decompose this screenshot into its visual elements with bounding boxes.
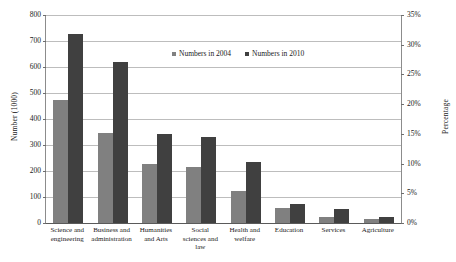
bars-layer: [46, 15, 401, 223]
bar: [290, 204, 305, 223]
x-axis-category-label: Humanities and Arts: [134, 226, 178, 252]
y-axis-left-tick-label: 300: [30, 141, 41, 149]
bar-group: [90, 15, 134, 223]
bar: [142, 164, 157, 223]
y-axis-left-tick-label: 100: [30, 193, 41, 201]
y-axis-right-tick-mark: [401, 45, 404, 46]
bar-group: [135, 15, 179, 223]
y-axis-right-tick-label: 35%: [407, 11, 421, 19]
x-axis-category-label: Social sciences and law: [178, 226, 222, 252]
y-axis-right-tick-label: 0%: [407, 219, 417, 227]
y-axis-left-tick-mark: [43, 223, 46, 224]
x-axis-category-label: Agriculture: [356, 226, 400, 252]
y-axis-right-tick-mark: [401, 15, 404, 16]
y-axis-left-tick-label: 400: [30, 115, 41, 123]
y-axis-right-tick-mark: [401, 193, 404, 194]
x-axis-category-label: Education: [267, 226, 311, 252]
y-axis-left-tick-label: 500: [30, 89, 41, 97]
legend-swatch-2010: [245, 52, 249, 56]
x-axis-category-label: Health and welfare: [223, 226, 267, 252]
y-axis-right-tick-mark: [401, 223, 404, 224]
y-axis-right-tick-mark: [401, 104, 404, 105]
y-axis-left-tick-label: 0: [37, 219, 41, 227]
bar: [231, 191, 246, 224]
bar-group: [268, 15, 312, 223]
y-axis-left-tick-label: 600: [30, 63, 41, 71]
bar: [53, 100, 68, 223]
y-axis-right-tick-label: 10%: [407, 160, 421, 168]
legend-item: Numbers in 2004: [172, 50, 231, 58]
bar: [319, 217, 334, 223]
bar: [186, 167, 201, 223]
bar: [157, 134, 172, 223]
x-axis-category-label: Services: [311, 226, 355, 252]
bar-group: [312, 15, 356, 223]
bar: [68, 34, 83, 223]
bar-group: [357, 15, 401, 223]
y-axis-right-tick-label: 25%: [407, 70, 421, 78]
bar-group: [179, 15, 223, 223]
y-axis-left-tick-label: 800: [30, 11, 41, 19]
y-axis-right-tick-mark: [401, 74, 404, 75]
y-axis-right-tick-label: 15%: [407, 130, 421, 138]
bar: [364, 219, 379, 223]
y-axis-right-tick-label: 20%: [407, 100, 421, 108]
x-axis-category-label: Business and administration: [89, 226, 133, 252]
bar: [275, 208, 290, 223]
legend: Numbers in 2004Numbers in 2010: [172, 50, 304, 58]
bar: [201, 137, 216, 223]
bar-chart: Number (1000) Percentage 010020030040050…: [0, 0, 456, 262]
legend-item: Numbers in 2010: [245, 50, 304, 58]
y-axis-left-title: Number (1000): [10, 72, 19, 162]
x-axis-category-labels: Science and engineeringBusiness and admi…: [45, 226, 400, 252]
bar-group: [46, 15, 90, 223]
bar: [113, 62, 128, 223]
y-axis-right-tick-label: 5%: [407, 189, 417, 197]
y-axis-left-tick-label: 200: [30, 167, 41, 175]
bar: [334, 209, 349, 223]
legend-label: Numbers in 2010: [252, 50, 304, 58]
y-axis-right-tick-mark: [401, 134, 404, 135]
bar: [379, 217, 394, 223]
legend-swatch-2004: [172, 52, 176, 56]
y-axis-right-tick-label: 30%: [407, 41, 421, 49]
y-axis-left-tick-label: 700: [30, 37, 41, 45]
bar: [98, 133, 113, 223]
x-axis-category-label: Science and engineering: [45, 226, 89, 252]
legend-label: Numbers in 2004: [179, 50, 231, 58]
y-axis-right-tick-mark: [401, 164, 404, 165]
bar-group: [224, 15, 268, 223]
plot-area: 0100200300400500600700800 0%5%10%15%20%2…: [45, 15, 402, 224]
y-axis-right-title: Percentage: [441, 72, 450, 162]
bar: [246, 162, 261, 223]
